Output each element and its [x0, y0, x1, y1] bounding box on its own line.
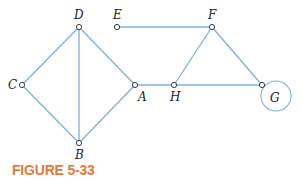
- vertex-f: [209, 24, 214, 29]
- vertex-label-a: A: [137, 90, 147, 104]
- vertex-label-b: B: [74, 148, 84, 162]
- graph-diagram: ABCDEFGH: [0, 0, 302, 188]
- edge-f-g: [212, 27, 262, 85]
- vertex-h: [171, 82, 176, 87]
- edge-a-b: [79, 85, 135, 143]
- vertex-a: [132, 82, 137, 87]
- edge-c-b: [22, 85, 79, 143]
- vertex-d: [76, 24, 81, 29]
- vertex-label-g: G: [270, 91, 280, 105]
- edges: [22, 27, 262, 143]
- edge-f-h: [174, 27, 212, 85]
- vertex-label-e: E: [112, 8, 122, 22]
- figure-caption: FIGURE 5-33: [12, 162, 95, 178]
- vertex-c: [19, 82, 24, 87]
- vertex-label-f: F: [207, 8, 217, 22]
- vertex-label-h: H: [169, 90, 181, 104]
- vertex-label-d: D: [73, 8, 84, 22]
- edge-d-a: [79, 27, 135, 85]
- edge-d-c: [22, 27, 79, 85]
- vertex-e: [114, 24, 119, 29]
- vertex-b: [76, 140, 81, 145]
- vertex-label-c: C: [8, 78, 17, 92]
- vertex-g: [259, 82, 264, 87]
